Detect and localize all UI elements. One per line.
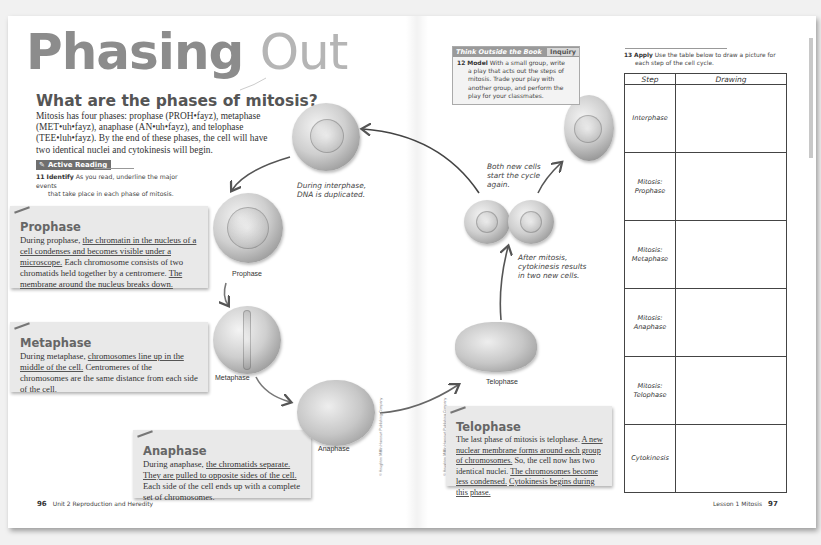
table-row: Mitosis:Anaphase xyxy=(625,289,787,357)
arrow-prophase-to-metaphase xyxy=(224,283,228,305)
pencil-icon xyxy=(450,406,466,413)
step-cell: Mitosis:Prophase xyxy=(625,153,676,221)
table-header-row: Step Drawing xyxy=(625,74,787,85)
table-row: Mitosis:Metaphase xyxy=(625,221,787,289)
anaphase-box: Anaphase During anaphase, the chromatids… xyxy=(133,430,311,498)
restart-note: Both new cells start the cycle again. xyxy=(487,162,541,189)
intro-paragraph: Mitosis has four phases: prophase (PROH•… xyxy=(36,111,268,156)
drawing-cell[interactable] xyxy=(676,425,787,493)
metaphase-box: Metaphase During metaphase, chromosomes … xyxy=(10,322,208,392)
telophase-box: Telophase The last phase of mitosis is t… xyxy=(446,406,612,486)
table-row: Mitosis:Telophase xyxy=(625,357,787,425)
telophase-cell-image xyxy=(455,322,537,372)
step-cell: Mitosis:Anaphase xyxy=(625,289,676,357)
divider xyxy=(625,48,727,49)
anaphase-cell-image xyxy=(297,380,375,446)
prophase-box: Prophase During prophase, the chromatin … xyxy=(10,206,208,288)
cytokinesis-cell-right-image xyxy=(508,200,554,244)
think-outside-box: Think Outside the Book Inquiry 12 Model … xyxy=(452,46,580,105)
drawing-cell[interactable] xyxy=(676,153,787,221)
table-row: Cytokinesis xyxy=(625,425,787,493)
cytokinesis-cell-left-image xyxy=(464,200,510,244)
pencil-icon xyxy=(14,206,30,213)
table-row: Interphase xyxy=(625,85,787,153)
arrow-metaphase-to-anaphase xyxy=(256,377,290,402)
page-number-right: 97 xyxy=(768,500,778,508)
anaphase-label: Anaphase xyxy=(318,445,350,452)
metaphase-text: During metaphase, chromosomes line up in… xyxy=(20,351,200,395)
title-light: Out xyxy=(260,23,348,81)
step-cell: Mitosis:Metaphase xyxy=(625,221,676,289)
cytokinesis-note: After mitosis, cytokinesis results in tw… xyxy=(518,253,586,280)
title-bold: Phasing xyxy=(26,23,243,81)
drawing-cell[interactable] xyxy=(676,357,787,425)
apply-item: 13 Apply Use the table below to draw a p… xyxy=(624,51,784,67)
drawing-cell[interactable] xyxy=(676,221,787,289)
think-outside-item: 12 Model With a small group, write a pla… xyxy=(453,57,579,104)
header-drawing: Drawing xyxy=(676,74,787,85)
footer-right: Lesson 1 Mitosis97 xyxy=(713,500,778,508)
step-cell: Interphase xyxy=(625,85,676,153)
lesson-label: Lesson 1 Mitosis xyxy=(713,500,762,507)
item-number: 11 xyxy=(36,173,45,180)
table-row: Mitosis:Prophase xyxy=(625,153,787,221)
page-number-left: 96 xyxy=(37,500,47,508)
metaphase-heading: Metaphase xyxy=(20,336,200,350)
metaphase-label: Metaphase xyxy=(215,374,250,381)
divider xyxy=(94,168,134,169)
interphase-note: During interphase, DNA is duplicated. xyxy=(297,181,366,199)
anaphase-heading: Anaphase xyxy=(143,444,303,458)
copyright-left: © Houghton Mifflin Harcourt Publishing C… xyxy=(379,398,383,476)
step-cell: Cytokinesis xyxy=(625,425,676,493)
step-cell: Mitosis:Telophase xyxy=(625,357,676,425)
arrow-telophase-to-cytokinesis xyxy=(500,247,508,320)
metaphase-cell-image xyxy=(213,306,281,374)
prophase-label: Prophase xyxy=(232,270,262,277)
page-title: Phasing Out xyxy=(26,27,347,77)
prophase-text: During prophase, the chromatin in the nu… xyxy=(20,235,200,290)
arrow-cycle-return-to-interphase xyxy=(363,129,479,193)
arrow-cytokinesis-to-new-cell xyxy=(538,163,561,193)
prophase-cell-image xyxy=(213,193,283,263)
item-label: Identify xyxy=(47,173,74,180)
think-outside-header: Think Outside the Book Inquiry xyxy=(453,47,579,57)
pencil-icon xyxy=(14,322,30,329)
prophase-heading: Prophase xyxy=(20,220,200,234)
drawing-cell[interactable] xyxy=(676,85,787,153)
pencil-icon xyxy=(137,430,153,437)
footer-left: 96Unit 2 Reproduction and Heredity xyxy=(37,500,153,508)
arrow-interphase-to-prophase xyxy=(232,157,290,190)
telophase-heading: Telophase xyxy=(456,420,604,434)
item-text-cont: that take place in each phase of mitosis… xyxy=(36,190,196,199)
telophase-label: Telophase xyxy=(486,378,518,385)
cell-cycle-table: Step Drawing Interphase Mitosis:Prophase… xyxy=(624,73,787,493)
drawing-cell[interactable] xyxy=(676,289,787,357)
telophase-text: The last phase of mitosis is telophase. … xyxy=(456,435,604,498)
think-outside-title: Think Outside the Book xyxy=(456,48,542,56)
anaphase-text: During anaphase, the chromatids separate… xyxy=(143,459,303,503)
interphase-cell-image xyxy=(292,103,360,171)
header-step: Step xyxy=(625,74,676,85)
active-reading-item: 11 Identify As you read, underline the m… xyxy=(36,173,196,199)
pencil-book-icon: ✎ xyxy=(39,161,45,169)
unit-label: Unit 2 Reproduction and Heredity xyxy=(53,500,153,507)
inquiry-tag: Inquiry xyxy=(547,48,579,56)
section-heading: What are the phases of mitosis? xyxy=(36,92,318,110)
